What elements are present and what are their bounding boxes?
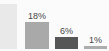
bar-value-label-3: 1% bbox=[84, 35, 107, 45]
bar-series-item-3[interactable] bbox=[84, 46, 107, 49]
bar-value-label-1: 18% bbox=[25, 11, 49, 21]
bar-chart: 18% 6% 1% bbox=[0, 0, 109, 51]
bar-series-item-1[interactable] bbox=[25, 22, 49, 49]
bar-value-label-2: 6% bbox=[55, 26, 78, 36]
plot-area: 18% 6% 1% bbox=[0, 0, 109, 51]
bar-series-item-2[interactable] bbox=[55, 37, 78, 49]
bar-series-item-0[interactable] bbox=[0, 4, 17, 49]
